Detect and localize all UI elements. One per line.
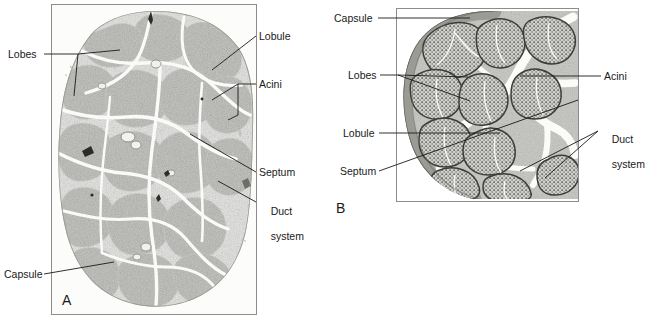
label-b-duct-line1: Duct: [612, 133, 634, 145]
label-a-duct-line2: system: [271, 230, 304, 242]
label-b-septum: Septum: [340, 165, 376, 177]
label-b-duct-line2: system: [612, 158, 645, 170]
lobules-group: [410, 17, 579, 202]
illustration-svg: [397, 9, 579, 202]
label-a-lobule: Lobule: [259, 30, 291, 42]
label-b-lobule: Lobule: [343, 127, 375, 139]
label-b-lobes: Lobes: [348, 69, 377, 81]
panel-a-micrograph: [52, 5, 256, 314]
label-a-lobes: Lobes: [8, 48, 37, 60]
label-a-acini: Acini: [259, 78, 282, 90]
panel-a-frame: [51, 4, 257, 315]
panel-letter-a: A: [62, 292, 71, 308]
label-b-capsule: Capsule: [334, 12, 373, 24]
label-a-capsule: Capsule: [4, 268, 43, 280]
panel-letter-b: B: [336, 200, 345, 216]
panel-b-frame: [396, 8, 579, 202]
label-a-septum: Septum: [259, 166, 295, 178]
label-a-duct-system: Duct system: [259, 192, 304, 255]
label-a-duct-line1: Duct: [271, 205, 293, 217]
micrograph-svg: [52, 5, 256, 314]
tissue-mass: [52, 5, 256, 314]
label-b-acini: Acini: [604, 70, 627, 82]
label-b-duct-system: Duct system: [600, 120, 645, 183]
